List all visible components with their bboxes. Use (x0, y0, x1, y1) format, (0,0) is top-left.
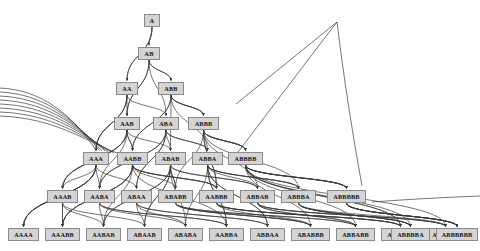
edge-abbb-to-abbbb (204, 130, 246, 151)
node-label: ABAB (162, 153, 180, 164)
edge-abba-to-abbba (208, 165, 299, 189)
node-label: AABBB (205, 191, 227, 202)
node-abbbbb[interactable]: ABBBBB (327, 190, 366, 203)
edge-abbb-to-abbbb (204, 130, 246, 151)
node-label: AA (122, 83, 131, 94)
node-label: AABA (90, 191, 108, 202)
edge-ab-to-abb (149, 60, 171, 81)
node-aaa[interactable]: AAA (83, 152, 109, 165)
edge-abb-to-abbb (171, 95, 204, 116)
edge-abbbb-to-abbbbb (246, 165, 347, 189)
node-a[interactable]: A (144, 14, 160, 27)
node-abbbba[interactable]: ABBBBA (391, 228, 430, 241)
edge-abbbb-to-abbbbb (246, 165, 347, 189)
edge-aab-to-abab (127, 130, 171, 151)
node-label: ABABBB (297, 229, 324, 240)
edge-aba-to-abba (166, 130, 208, 151)
node-label: ABBBBBB (442, 229, 473, 240)
edge-abbbb-to-abbbbb (246, 165, 347, 189)
long-edge-11 (372, 196, 480, 202)
node-aab[interactable]: AAB (114, 117, 140, 130)
edge-aabbb-to-aabbbb (217, 203, 401, 227)
node-aaba[interactable]: AABA (84, 190, 115, 203)
node-aba[interactable]: ABA (153, 117, 179, 130)
edge-layer (0, 0, 480, 251)
node-label: ABAA (127, 191, 145, 202)
node-label: ABBA (199, 153, 217, 164)
edge-ababb-to-abbabb (176, 203, 356, 227)
edge-abbb-to-abbbb (204, 130, 246, 151)
node-abbb[interactable]: ABBB (188, 117, 219, 130)
node-label: ABBBBB (333, 191, 359, 202)
node-label: AABBA (215, 229, 238, 240)
edge-abbbb-to-abbbbb (246, 165, 347, 189)
node-aabab[interactable]: AABAB (86, 228, 121, 241)
node-abbbb[interactable]: ABBBB (228, 152, 263, 165)
edge-aaa-to-aaba (96, 165, 100, 189)
node-abbabb[interactable]: ABBABB (336, 228, 375, 241)
node-abbab[interactable]: ABBAB (240, 190, 275, 203)
node-abaab[interactable]: ABAAB (127, 228, 162, 241)
edge-aaa-to-aaab (63, 165, 97, 189)
node-ab[interactable]: AB (138, 47, 160, 60)
diagram-canvas: AABAAABBAABABAABBBAAAAABBABABABBAABBBBAA… (0, 0, 480, 251)
node-label: ABABB (164, 191, 186, 202)
node-aa[interactable]: AA (116, 82, 138, 95)
node-label: AABAB (92, 229, 115, 240)
edge-aabbb-to-aabbbb (217, 203, 401, 227)
node-abab[interactable]: ABAB (155, 152, 186, 165)
edge-aaba-to-ababa (100, 203, 186, 227)
node-abb[interactable]: ABB (158, 82, 184, 95)
edge-aba-to-abba (166, 130, 208, 151)
edge-abab-to-abbab (171, 165, 258, 189)
node-abbba[interactable]: ABBBA (281, 190, 316, 203)
edge-aabbb-to-aabbbb (217, 203, 401, 227)
edge-a-to-ab (149, 27, 152, 46)
node-label: AAAB (53, 191, 71, 202)
node-label: A (150, 15, 155, 26)
long-edge-9 (232, 22, 337, 160)
node-label: ABBABB (342, 229, 369, 240)
node-label: ABBB (195, 118, 213, 129)
node-abaa[interactable]: ABAA (121, 190, 152, 203)
node-aabbb[interactable]: AABBB (199, 190, 234, 203)
node-label: AAABB (51, 229, 74, 240)
edge-abbbb-to-abbbbb (246, 165, 347, 189)
node-aaaa[interactable]: AAAA (8, 228, 39, 241)
edge-abb-to-abbb (171, 95, 204, 116)
node-label: ABBAA (256, 229, 279, 240)
node-label: ABBBA (287, 191, 309, 202)
edge-aa-to-aba (127, 95, 166, 116)
edge-aaa-to-abaa (96, 165, 137, 189)
node-aabb[interactable]: AABB (117, 152, 148, 165)
edge-abab-to-abbab (171, 165, 258, 189)
node-ababa[interactable]: ABABA (168, 228, 203, 241)
edge-aabb-to-aabbb (133, 165, 217, 189)
node-label: ABABA (174, 229, 197, 240)
node-label: ABA (159, 118, 173, 129)
edge-abbba-to-abbbab (299, 203, 446, 227)
node-ababb[interactable]: ABABB (158, 190, 193, 203)
node-label: ABBAB (246, 191, 268, 202)
edge-abba-to-abbba (208, 165, 299, 189)
node-label: AAA (89, 153, 103, 164)
edge-ababb-to-abbabb (176, 203, 356, 227)
node-abbbbbb[interactable]: ABBBBBB (436, 228, 478, 241)
long-edge-8 (236, 22, 337, 104)
edge-aabbb-to-aabbbb (217, 203, 401, 227)
node-aaab[interactable]: AAAB (47, 190, 78, 203)
edge-abbb-to-abbbb (204, 130, 246, 151)
node-label: AAB (120, 118, 134, 129)
edge-aab-to-aabb (127, 130, 133, 151)
node-label: ABB (164, 83, 177, 94)
edge-aabb-to-aabbb (133, 165, 217, 189)
node-label: AAAA (14, 229, 33, 240)
node-label: ABAAB (133, 229, 156, 240)
node-abba[interactable]: ABBA (192, 152, 223, 165)
node-aabba[interactable]: AABBA (209, 228, 244, 241)
node-abbaa[interactable]: ABBAA (250, 228, 285, 241)
node-ababbb[interactable]: ABABBB (291, 228, 330, 241)
node-label: ABBBB (235, 153, 257, 164)
node-aaabb[interactable]: AAABB (45, 228, 80, 241)
long-edge-10 (337, 22, 362, 186)
